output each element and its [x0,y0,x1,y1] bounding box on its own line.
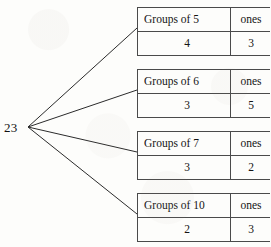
ones-value-3: 2 [231,156,271,180]
branch-line-1 [28,28,137,127]
group-value-1: 4 [138,32,231,56]
group-table-3: Groups of 7 ones 3 2 [137,131,270,180]
ones-value-4: 3 [231,218,271,242]
ones-header-1: ones [231,8,271,32]
table-row: Groups of 7 ones [138,132,271,156]
ones-header-2: ones [231,70,271,94]
table-row: 4 3 [138,32,271,56]
branch-line-2 [28,90,137,127]
ones-header-4: ones [231,194,271,218]
root-number-label: 23 [4,119,17,136]
group-table-1: Groups of 5 ones 4 3 [137,7,270,56]
group-value-3: 3 [138,156,231,180]
table-row: Groups of 10 ones [138,194,271,218]
table-row: 2 3 [138,218,271,242]
table-row: 3 2 [138,156,271,180]
group-header-3: Groups of 7 [138,132,231,156]
group-table-2: Groups of 6 ones 3 5 [137,69,270,118]
branch-line-4 [28,127,137,214]
ones-header-3: ones [231,132,271,156]
group-value-4: 2 [138,218,231,242]
group-value-2: 3 [138,94,231,118]
group-header-1: Groups of 5 [138,8,231,32]
group-table-4: Groups of 10 ones 2 3 [137,193,270,242]
number-decomposition-diagram: 23 Groups of 5 ones 4 3 Groups of 6 ones… [0,0,270,247]
ones-value-1: 3 [231,32,271,56]
table-row: Groups of 6 ones [138,70,271,94]
table-row: 3 5 [138,94,271,118]
ones-value-2: 5 [231,94,271,118]
table-row: Groups of 5 ones [138,8,271,32]
group-header-4: Groups of 10 [138,194,231,218]
group-header-2: Groups of 6 [138,70,231,94]
